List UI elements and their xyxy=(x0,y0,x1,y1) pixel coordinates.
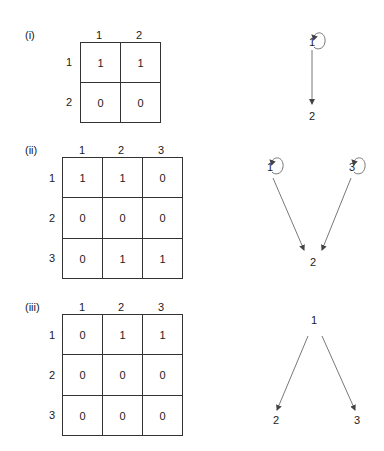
adjacency-matrix: 1 1 0 0 xyxy=(80,42,161,123)
matrix-cell: 1 xyxy=(121,43,161,83)
row-header: 2 xyxy=(42,212,62,224)
matrix-cell: 0 xyxy=(143,355,183,396)
row-header: 1 xyxy=(42,329,62,341)
graph-node: 1 xyxy=(311,314,317,326)
matrix-cell: 0 xyxy=(121,83,161,123)
directed-edge xyxy=(277,336,308,410)
matrix-row: 0 0 xyxy=(81,83,161,123)
matrix-row: 0 0 0 xyxy=(63,355,183,396)
directed-edge xyxy=(273,178,304,250)
row-header: 1 xyxy=(59,56,79,68)
graph-iii: 1 2 3 xyxy=(273,314,360,426)
figure-label: (i) xyxy=(25,29,35,41)
graph-node: 1 xyxy=(309,36,315,48)
matrix-row: 0 1 1 xyxy=(63,239,183,279)
col-header: 2 xyxy=(111,144,131,156)
self-loop-edge xyxy=(272,158,283,174)
loop-arrowhead xyxy=(352,160,355,163)
col-header: 2 xyxy=(111,301,131,313)
matrix-row: 0 0 0 xyxy=(63,198,183,239)
matrix-cell: 1 xyxy=(103,158,143,198)
self-loop-edge xyxy=(354,158,365,174)
graph-node: 1 xyxy=(267,161,273,173)
row-header: 2 xyxy=(42,369,62,381)
col-header: 3 xyxy=(151,144,171,156)
matrix-cell: 1 xyxy=(143,239,183,279)
row-header: 3 xyxy=(42,409,62,421)
row-header: 3 xyxy=(42,252,62,264)
matrix-cell: 1 xyxy=(81,43,121,83)
matrix-cell: 0 xyxy=(81,83,121,123)
row-header: 2 xyxy=(59,96,79,108)
col-header: 2 xyxy=(129,29,149,41)
graph-ii: 1 3 2 xyxy=(267,158,365,268)
matrix-cell: 1 xyxy=(143,315,183,355)
matrix-cell: 0 xyxy=(103,198,143,239)
matrix-cell: 1 xyxy=(103,315,143,355)
matrix-cell: 0 xyxy=(63,315,103,355)
directed-edge xyxy=(322,178,351,250)
matrix-cell: 1 xyxy=(103,239,143,279)
graph-node: 2 xyxy=(309,110,315,122)
matrix-cell: 0 xyxy=(143,158,183,198)
graph-node: 2 xyxy=(273,414,279,426)
matrix-cell: 0 xyxy=(143,198,183,239)
col-header: 3 xyxy=(151,301,171,313)
matrix-row: 1 1 xyxy=(81,43,161,83)
matrix-cell: 1 xyxy=(63,158,103,198)
figure-label: (iii) xyxy=(25,301,40,313)
graph-node: 3 xyxy=(349,161,355,173)
matrix-cell: 0 xyxy=(63,239,103,279)
matrix-row: 0 0 0 xyxy=(63,396,183,436)
figure-label: (ii) xyxy=(25,144,37,156)
graph-i: 1 2 xyxy=(309,33,325,122)
col-header: 1 xyxy=(89,29,109,41)
matrix-cell: 0 xyxy=(103,396,143,436)
adjacency-matrix: 0 1 1 0 0 0 0 0 0 xyxy=(62,314,183,436)
graph-node: 2 xyxy=(310,256,316,268)
loop-arrowhead xyxy=(312,35,315,38)
matrix-cell: 0 xyxy=(63,396,103,436)
matrix-cell: 0 xyxy=(63,355,103,396)
loop-arrowhead xyxy=(270,160,273,163)
matrix-cell: 0 xyxy=(63,198,103,239)
self-loop-edge xyxy=(314,33,325,49)
col-header: 1 xyxy=(72,301,92,313)
directed-graphs: 1 2 1 3 2 1 2 3 xyxy=(0,0,384,451)
adjacency-matrix: 1 1 0 0 0 0 0 1 1 xyxy=(62,157,183,279)
graph-node: 3 xyxy=(354,414,360,426)
row-header: 1 xyxy=(42,172,62,184)
matrix-row: 0 1 1 xyxy=(63,315,183,355)
col-header: 1 xyxy=(72,144,92,156)
directed-edge xyxy=(322,336,355,410)
matrix-cell: 0 xyxy=(103,355,143,396)
matrix-row: 1 1 0 xyxy=(63,158,183,198)
matrix-cell: 0 xyxy=(143,396,183,436)
